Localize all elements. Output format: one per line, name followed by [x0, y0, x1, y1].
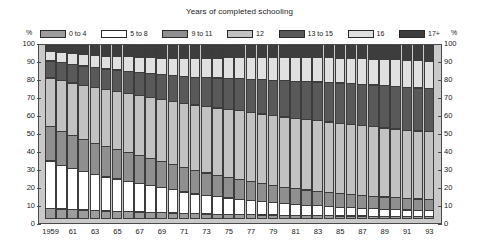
bar-segment	[234, 214, 245, 219]
bar-segment	[290, 81, 301, 119]
legend-swatch-icon	[40, 30, 66, 38]
bar-segment	[390, 45, 401, 60]
bar-segment	[246, 79, 257, 113]
bar-segment	[179, 45, 190, 59]
x-axis-tick	[212, 227, 223, 239]
bar-segment	[346, 83, 357, 124]
bar-segment	[390, 129, 401, 198]
tick-mark	[37, 170, 41, 171]
bar-segment	[234, 199, 245, 215]
bar-segment	[101, 177, 112, 212]
bar-segment	[212, 175, 223, 197]
legend-swatch-icon	[101, 30, 127, 38]
bar-segment	[402, 216, 413, 219]
stacked-bar	[424, 45, 435, 223]
bar-segment	[179, 192, 190, 214]
bar-segment	[201, 214, 212, 219]
x-axis: 19596163656769717375777981838587899193	[45, 227, 435, 239]
bar-segment	[379, 216, 390, 219]
bar-segment	[190, 45, 201, 59]
x-axis-tick	[78, 227, 89, 239]
bar-segment	[290, 188, 301, 204]
bar-segment	[290, 215, 301, 219]
bar-segment	[168, 58, 179, 76]
bar-segment	[223, 78, 234, 110]
stacked-bar	[156, 45, 167, 223]
bar-segment	[234, 179, 245, 199]
bar-segment	[268, 215, 279, 219]
bar-segment	[145, 158, 156, 186]
tick-mark	[438, 44, 442, 45]
stacked-bar	[212, 45, 223, 223]
bar-segment	[190, 105, 201, 171]
bar-segment	[156, 45, 167, 58]
bar-segment	[324, 122, 335, 193]
bar-segment	[268, 202, 279, 215]
bar-segment	[324, 57, 335, 82]
tick-mark	[438, 98, 442, 99]
bar-segment	[268, 57, 279, 80]
bar-segment	[379, 85, 390, 128]
stacked-bar	[246, 45, 257, 223]
bar-segment	[234, 57, 245, 79]
stacked-bar	[357, 45, 368, 223]
bar-segment	[413, 88, 424, 132]
bar-segment	[257, 183, 268, 202]
bar-segment	[56, 209, 67, 219]
bar-segment	[234, 110, 245, 179]
x-axis-tick-label: 77	[247, 227, 255, 236]
legend-label: 12	[256, 30, 264, 37]
bar-segment	[223, 45, 234, 58]
x-axis-tick-label: 91	[403, 227, 411, 236]
bar-segment	[223, 109, 234, 178]
bar-segment	[402, 130, 413, 199]
x-axis-tick: 69	[156, 227, 167, 239]
bar-segment	[90, 210, 101, 219]
bar-segment	[190, 170, 201, 194]
bar-segment	[56, 62, 67, 81]
legend-item: 9 to 11	[162, 30, 212, 38]
bar-segment	[201, 195, 212, 214]
bar-segment	[78, 171, 89, 210]
tick-mark	[438, 62, 442, 63]
bar-segment	[290, 204, 301, 216]
stacked-bar	[390, 45, 401, 223]
bar-segment	[56, 165, 67, 210]
bar-segment	[168, 213, 179, 219]
bar-segment	[45, 161, 56, 209]
bar-segment	[357, 125, 368, 195]
stacked-bar	[290, 45, 301, 223]
x-axis-tick-label: 61	[69, 227, 77, 236]
stacked-bar	[190, 45, 201, 223]
bar-segment	[168, 101, 179, 165]
x-axis-tick-label: 79	[269, 227, 277, 236]
bar-segment	[145, 185, 156, 213]
x-axis-tick: 87	[357, 227, 368, 239]
bar-segment	[156, 212, 167, 218]
x-axis-tick-label: 81	[291, 227, 299, 236]
bar-segment	[290, 45, 301, 58]
x-axis-tick	[413, 227, 424, 239]
bar-segment	[67, 209, 78, 219]
bar-segment	[212, 78, 223, 109]
legend-label: 16	[377, 30, 385, 37]
bar-segment	[257, 201, 268, 215]
bar-segment	[123, 93, 134, 153]
bar-segment	[78, 54, 89, 66]
bar-segment	[90, 55, 101, 68]
stacked-bar	[45, 45, 56, 223]
x-axis-tick	[346, 227, 357, 239]
bar-segment	[268, 45, 279, 58]
x-axis-tick	[190, 227, 201, 239]
bar-segment	[201, 45, 212, 59]
tick-mark	[438, 152, 442, 153]
bar-segment	[212, 196, 223, 214]
bar-segment	[212, 214, 223, 219]
stacked-bar	[112, 45, 123, 223]
stacked-bar	[101, 45, 112, 223]
bar-segment	[335, 83, 346, 124]
bar-segment	[268, 80, 279, 116]
x-axis-tick-label: 87	[358, 227, 366, 236]
bar-segment	[134, 183, 145, 212]
stacked-bar	[368, 45, 379, 223]
